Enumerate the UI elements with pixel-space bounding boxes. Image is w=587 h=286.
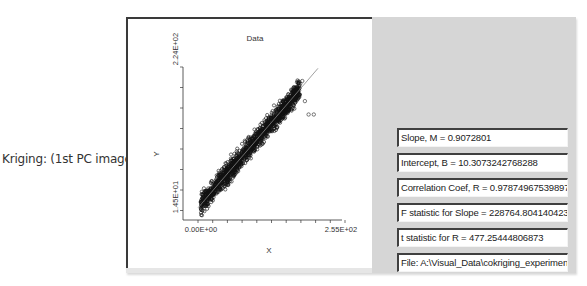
intercept-field[interactable]: Intercept, B = 10.3073242768288 [397, 153, 568, 172]
plot-bottom-bar [126, 268, 372, 273]
chart-title: Data [247, 34, 264, 43]
y-tick-label-max: 2.24E+02 [171, 33, 180, 65]
x-tick-label-min: 0.00E+00 [185, 225, 217, 234]
figure-caption: Kriging: (1st PC image) [2, 152, 136, 166]
correlation-field[interactable]: Correlation Coef, R = 0.978749675398978 [397, 178, 568, 197]
x-axis-label: X [266, 246, 272, 255]
y-axis-label: Y [152, 151, 161, 157]
data-points [199, 79, 316, 217]
file-path-field[interactable]: File: A:\Visual_Data\cokriging_experimen… [397, 253, 568, 272]
y-tick-label-min: 1.45E+01 [171, 181, 180, 213]
x-axis-ticks [198, 220, 345, 223]
statistics-panel: Slope, M = 0.9072801 Intercept, B = 10.3… [372, 17, 576, 273]
scatter-plot-panel: Data 2.24E+02 1.45E+01 Y 0.00E+00 2.55E+… [126, 17, 372, 268]
slope-field[interactable]: Slope, M = 0.9072801 [397, 128, 568, 147]
regression-window: Data 2.24E+02 1.45E+01 Y 0.00E+00 2.55E+… [126, 17, 576, 273]
f-statistic-field[interactable]: F statistic for Slope = 228764.804140423 [397, 203, 568, 222]
scatter-plot: Data 2.24E+02 1.45E+01 Y 0.00E+00 2.55E+… [126, 17, 374, 270]
y-axis-ticks [180, 67, 183, 211]
t-statistic-field[interactable]: t statistic for R = 477.25444806873 [397, 228, 568, 247]
regression-line [198, 68, 318, 207]
x-tick-label-max: 2.55E+02 [325, 225, 357, 234]
